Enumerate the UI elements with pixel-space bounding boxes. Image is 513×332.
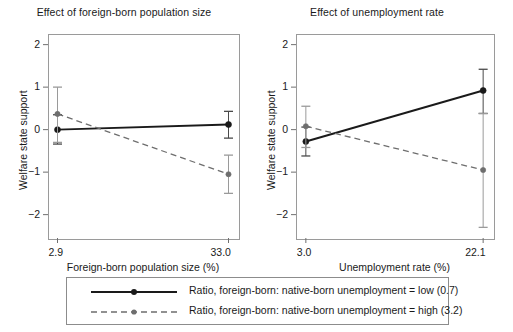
legend-key-solid-icon: [85, 281, 183, 303]
x-axis-label: Foreign-born population size (%): [48, 261, 238, 273]
plot-canvas: [249, 0, 513, 265]
y-tick-label: 2: [18, 38, 40, 50]
x-tick-label: 2.9: [49, 246, 64, 258]
y-tick-label: −2: [18, 208, 40, 220]
chart-panel-unemployment: Effect of unemployment rate Welfare stat…: [249, 0, 513, 265]
chart-panel-foreign-born: Effect of foreign-born population size W…: [0, 0, 256, 265]
legend-label: Ratio, foreign-born: native-born unemplo…: [189, 284, 458, 296]
legend-key-dashed-icon: [85, 301, 183, 323]
y-tick-label: −1: [18, 165, 40, 177]
y-tick-label: 2: [266, 38, 288, 50]
x-axis-label: Unemployment rate (%): [296, 261, 493, 273]
y-tick-label: 1: [266, 80, 288, 92]
legend-label: Ratio, foreign-born: native-born unemplo…: [189, 304, 462, 316]
legend-item-high: Ratio, foreign-born: native-born unemplo…: [67, 301, 448, 323]
legend-item-low: Ratio, foreign-born: native-born unemplo…: [67, 281, 448, 303]
y-tick-label: 0: [18, 123, 40, 135]
y-tick-label: −2: [266, 208, 288, 220]
x-tick-label: 22.1: [465, 246, 485, 258]
x-tick-label: 33.0: [211, 246, 231, 258]
legend: Ratio, foreign-born: native-born unemplo…: [66, 277, 449, 325]
x-tick-label: 3.0: [297, 246, 312, 258]
y-tick-label: 1: [18, 80, 40, 92]
y-tick-label: −1: [266, 165, 288, 177]
y-tick-label: 0: [266, 123, 288, 135]
